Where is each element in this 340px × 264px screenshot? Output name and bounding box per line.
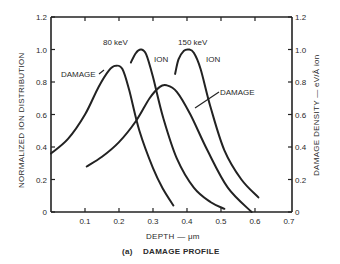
y-left-tick-label: 0 [43, 208, 48, 217]
annotation-ion-150: ION [206, 55, 220, 64]
x-axis-title: DEPTH — μm [146, 232, 200, 241]
damage-80-leader [99, 70, 104, 74]
x-tick-label: 0.4 [181, 217, 193, 226]
annotation-150kev: 150 keV [178, 38, 208, 47]
x-tick-label: 0.1 [79, 217, 91, 226]
x-tick-label: 0.6 [249, 217, 261, 226]
left-axis-title: NORMALIZED ION DISTRIBUTION [17, 52, 26, 188]
x-tick-label: 0.5 [215, 217, 227, 226]
damage-profile-chart: 0.10.20.30.40.50.60.700.20.40.60.81.01.2… [0, 0, 340, 264]
annotation-damage-150: DAMAGE [220, 88, 255, 97]
plot-frame [51, 17, 292, 212]
curve-80kev-ion [131, 49, 225, 208]
y-left-tick-label: 0.4 [36, 143, 48, 152]
caption-title: DAMAGE PROFILE [143, 247, 220, 256]
y-left-tick-label: 0.2 [36, 176, 48, 185]
y-left-tick-label: 0.8 [36, 78, 48, 87]
y-left-tick-label: 1.0 [36, 46, 48, 55]
annotation-damage-80: DAMAGE [61, 70, 96, 79]
y-right-tick-label: 1.2 [295, 13, 307, 22]
axis-tick-labels: 0.10.20.30.40.50.60.700.20.40.60.81.01.2… [36, 13, 307, 226]
y-left-tick-label: 0.6 [36, 111, 48, 120]
x-tick-label: 0.7 [283, 217, 295, 226]
x-tick-label: 0.3 [147, 217, 159, 226]
y-right-tick-label: 0.8 [295, 78, 307, 87]
right-axis-title: DAMAGE DENSITY — eV/Å ion [312, 54, 321, 176]
curve-150kev-damage [87, 85, 252, 212]
axis-ticks [51, 17, 292, 212]
y-right-tick-label: 1.0 [295, 46, 307, 55]
y-right-tick-label: 0 [295, 208, 300, 217]
annotation-80kev: 80 keV [103, 38, 129, 47]
y-right-tick-label: 0.6 [295, 111, 307, 120]
y-left-tick-label: 1.2 [36, 13, 48, 22]
y-right-tick-label: 0.4 [295, 143, 307, 152]
annotation-ion-80: ION [154, 55, 168, 64]
curve-150kev-ion [175, 49, 258, 197]
caption-prefix: (a) [122, 247, 133, 256]
x-tick-label: 0.2 [113, 217, 125, 226]
y-right-tick-label: 0.2 [295, 176, 307, 185]
